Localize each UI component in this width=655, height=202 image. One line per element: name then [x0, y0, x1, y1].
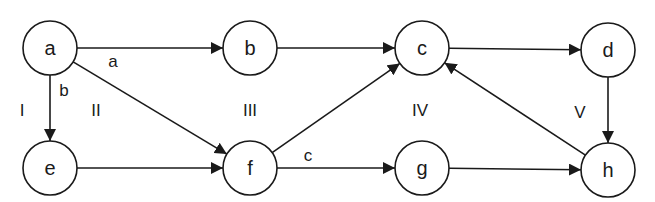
node-label-f: f: [247, 157, 253, 179]
regions-layer: IIIIIIIVV: [20, 101, 587, 122]
node-e: e: [23, 141, 77, 195]
node-label-a: a: [44, 37, 56, 59]
node-label-h: h: [602, 159, 613, 181]
edge-label-a-b: a: [108, 52, 118, 71]
edge-h-c: [445, 63, 586, 155]
region-label-3: III: [243, 101, 257, 120]
node-h: h: [581, 143, 635, 197]
region-label-4: IV: [412, 101, 429, 120]
region-label-5: V: [574, 103, 586, 122]
edge-g-h: [449, 168, 581, 169]
region-label-2: II: [91, 101, 100, 120]
edge-label-f-g: c: [304, 146, 313, 165]
node-d: d: [581, 23, 635, 77]
node-c: c: [395, 21, 449, 75]
node-label-g: g: [416, 157, 427, 179]
node-label-e: e: [44, 157, 55, 179]
node-label-c: c: [417, 37, 427, 59]
node-b: b: [223, 21, 277, 75]
edge-label-a-e: b: [59, 81, 68, 100]
node-f: f: [223, 141, 277, 195]
node-label-b: b: [244, 37, 255, 59]
region-label-1: I: [20, 101, 25, 120]
node-a: a: [23, 21, 77, 75]
edges-layer: abc: [50, 48, 608, 170]
directed-graph: abc abcdefgh IIIIIIIVV: [0, 0, 655, 202]
edge-c-d: [449, 48, 581, 49]
edge-f-c: [272, 63, 400, 152]
node-g: g: [395, 141, 449, 195]
node-label-d: d: [602, 39, 613, 61]
